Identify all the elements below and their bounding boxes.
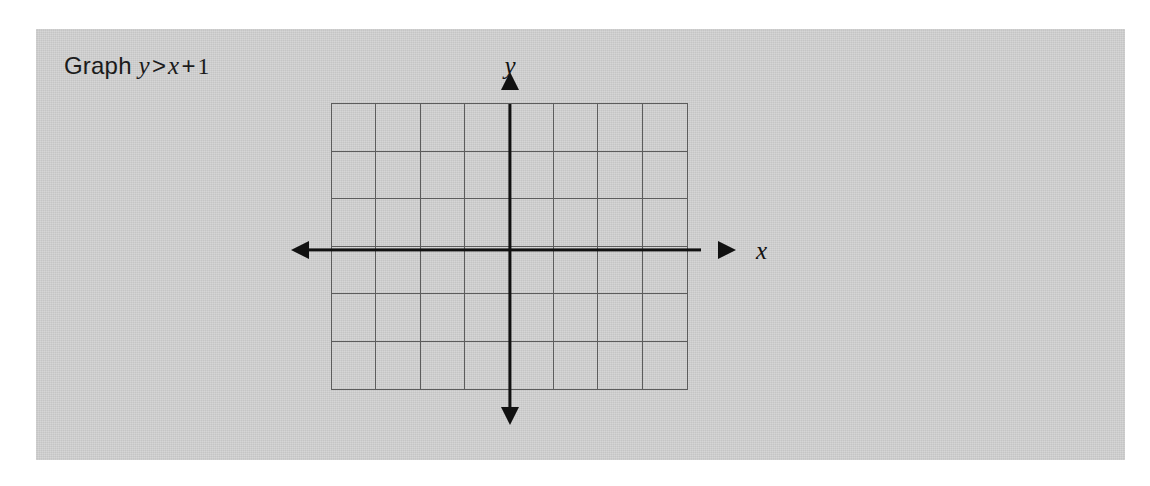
grid-cell	[376, 152, 420, 200]
grid-cell	[643, 199, 687, 247]
y-axis-line	[508, 104, 511, 417]
grid-cell	[376, 247, 420, 295]
grid-cell	[643, 152, 687, 200]
arrow-right-icon	[718, 241, 736, 259]
prompt-text: Graph y>x+1	[64, 53, 210, 78]
grid-cell	[332, 152, 376, 200]
arrow-down-icon	[501, 407, 519, 425]
grid-cell	[332, 294, 376, 342]
grid-cell	[598, 199, 642, 247]
grid-cell	[510, 247, 554, 295]
grid-cell	[554, 247, 598, 295]
coordinate-plane[interactable]: y x	[291, 69, 811, 469]
grid-cell	[421, 294, 465, 342]
grid-cell	[465, 152, 509, 200]
grid-cell	[554, 104, 598, 152]
grid-cell	[554, 294, 598, 342]
worksheet-panel: Graph y>x+1	[36, 29, 1125, 460]
grid-cell	[465, 247, 509, 295]
grid-cell	[465, 199, 509, 247]
prompt-constant: 1	[198, 53, 210, 79]
y-axis-label: y	[504, 53, 515, 78]
x-axis-line	[308, 248, 701, 251]
grid-cell	[465, 294, 509, 342]
grid-cell	[510, 342, 554, 390]
grid-cell	[376, 199, 420, 247]
grid-cell	[598, 247, 642, 295]
grid-cell	[332, 199, 376, 247]
x-axis-label: x	[756, 238, 767, 263]
grid-cell	[510, 104, 554, 152]
grid-cell	[376, 104, 420, 152]
grid-cell	[643, 342, 687, 390]
grid-cell	[332, 104, 376, 152]
prompt-right-variable: x	[168, 52, 179, 79]
grid-cell	[643, 104, 687, 152]
prompt-left-variable: y	[139, 52, 150, 79]
grid-cell	[554, 152, 598, 200]
prompt-lead-word: Graph	[64, 52, 132, 79]
grid-cell	[510, 152, 554, 200]
grid-cell	[421, 342, 465, 390]
grid-cell	[332, 247, 376, 295]
grid-cell	[465, 104, 509, 152]
grid-cell	[421, 152, 465, 200]
grid-cell	[598, 294, 642, 342]
grid-cell	[598, 342, 642, 390]
grid-cell	[376, 342, 420, 390]
grid-cell	[376, 294, 420, 342]
grid-cell	[465, 342, 509, 390]
grid-cell	[421, 247, 465, 295]
grid-cell	[598, 152, 642, 200]
grid-cell	[643, 294, 687, 342]
prompt-relation-operator: >	[150, 52, 168, 79]
grid-cell	[598, 104, 642, 152]
grid-cell	[421, 104, 465, 152]
grid-cell	[510, 199, 554, 247]
prompt-plus-operator: +	[179, 52, 197, 79]
grid-cell	[554, 199, 598, 247]
grid-cell	[421, 199, 465, 247]
grid-cell	[643, 247, 687, 295]
grid-cell	[554, 342, 598, 390]
grid-cell	[510, 294, 554, 342]
grid-cell	[332, 342, 376, 390]
arrow-left-icon	[291, 241, 309, 259]
